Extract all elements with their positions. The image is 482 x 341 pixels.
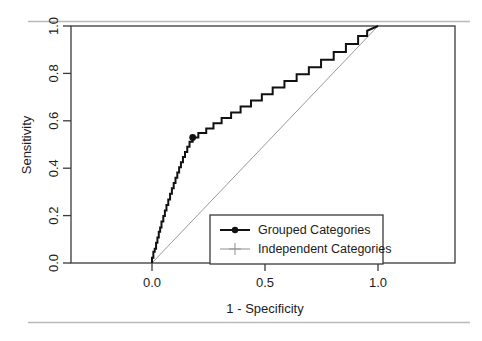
y-tick-label: 0.2	[46, 207, 61, 225]
x-tick-label: 0.5	[256, 275, 274, 290]
y-tick-label: 1.0	[46, 17, 61, 35]
series-grouped-categories-markers	[189, 134, 196, 141]
legend-label-grouped: Grouped Categories	[258, 223, 371, 237]
roc-chart-canvas: 1.0 0.8 0.6 0.4 0.2 0.0 Sensitivity 0.0 …	[0, 0, 482, 341]
y-tick-label: 0.4	[46, 159, 61, 177]
legend-label-independent: Independent Categories	[258, 242, 391, 256]
data-point-marker	[189, 134, 196, 141]
x-tick-label: 0.0	[143, 275, 161, 290]
y-tick-label: 0.8	[46, 64, 61, 82]
chart-legend[interactable]: Grouped Categories Independent Categorie…	[210, 215, 391, 264]
y-tick-label: 0.0	[46, 254, 61, 272]
x-axis-title: 1 - Specificity	[226, 301, 304, 316]
filled-circle-icon	[232, 227, 238, 233]
x-tick-labels: 0.0 0.5 1.0	[143, 275, 387, 290]
y-axis-title: Sensitivity	[19, 115, 34, 174]
y-axis-ticks	[63, 26, 71, 263]
roc-figure: 1.0 0.8 0.6 0.4 0.2 0.0 Sensitivity 0.0 …	[0, 0, 482, 341]
y-tick-labels: 1.0 0.8 0.6 0.4 0.2 0.0	[46, 17, 61, 272]
x-tick-label: 1.0	[369, 275, 387, 290]
y-tick-label: 0.6	[46, 112, 61, 130]
